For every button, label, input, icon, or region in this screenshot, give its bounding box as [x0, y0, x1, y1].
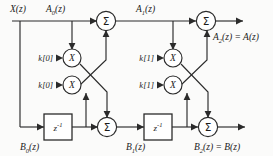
arrow-into-mult-k0-lower [83, 93, 90, 100]
arrow-output-b2 [238, 124, 245, 131]
label-a0: A0(z) [45, 4, 65, 16]
coef-label-k0-upper: k[0] [38, 53, 53, 63]
label-b0: B0(z) [20, 142, 39, 154]
sum-node-b2[interactable]: Σ [198, 117, 217, 136]
coefficient-labels: k[0] k[0] k[1] k[1] [38, 53, 154, 90]
mult-node-k0-upper[interactable]: X [63, 49, 81, 67]
mult-node-k0-lower[interactable]: X [63, 76, 81, 94]
label-b2: B2(z) = B(z) [194, 142, 240, 154]
mult-node-k1-lower[interactable]: X [164, 76, 182, 94]
lattice-filter-diagram: Σ Σ Σ Σ X X [0, 0, 273, 156]
label-input-xz: X(z) [9, 4, 26, 15]
sum-node-b1[interactable]: Σ [97, 117, 116, 136]
arrow-coef-k0-lower [56, 82, 63, 89]
sum-node-a2[interactable]: Σ [196, 11, 215, 30]
sum-node-a1[interactable]: Σ [96, 11, 115, 30]
mult-k0-upper-glyph: X [68, 53, 76, 63]
mult-k1-upper-glyph: X [169, 53, 177, 63]
arrow-coef-k0-upper [56, 55, 63, 62]
label-b1: B1(z) [126, 142, 145, 154]
stage-1-tap-wires [72, 21, 107, 127]
arrow-into-sum-b2 [191, 124, 198, 131]
arrow-into-sum-a2 [189, 18, 196, 25]
mult-k1-lower-glyph: X [169, 80, 177, 90]
arrow-coef-k1-lower [157, 82, 164, 89]
multiplier-nodes: X X X X [63, 49, 182, 94]
signal-flow-graph: Σ Σ Σ Σ X X [0, 0, 273, 156]
arrow-coef-k1-upper [157, 55, 164, 62]
delay-block-stage-2[interactable]: z-1 [144, 114, 172, 140]
coef-label-k1-upper: k[1] [139, 53, 154, 63]
arrow-into-mult-k1-lower [184, 93, 191, 100]
delay-block-stage-1[interactable]: z-1 [44, 114, 72, 140]
sum-b2-glyph: Σ [205, 121, 212, 133]
sum-b1-glyph: Σ [104, 121, 111, 133]
arrow-into-delay-1 [37, 124, 44, 131]
sum-a2-glyph: Σ [203, 15, 210, 27]
mult-k0-lower-glyph: X [68, 80, 76, 90]
mult-node-k1-upper[interactable]: X [164, 49, 182, 67]
arrow-into-delay-2 [137, 124, 144, 131]
coef-label-k0-lower: k[0] [38, 80, 53, 90]
sum-a1-glyph: Σ [103, 15, 110, 27]
label-a1: A1(z) [135, 4, 155, 16]
stage-2-tap-wires [173, 21, 208, 127]
coef-label-k1-lower: k[1] [139, 80, 154, 90]
arrow-output-a2 [236, 18, 243, 25]
label-a2: A2(z) = A(z) [212, 32, 259, 44]
